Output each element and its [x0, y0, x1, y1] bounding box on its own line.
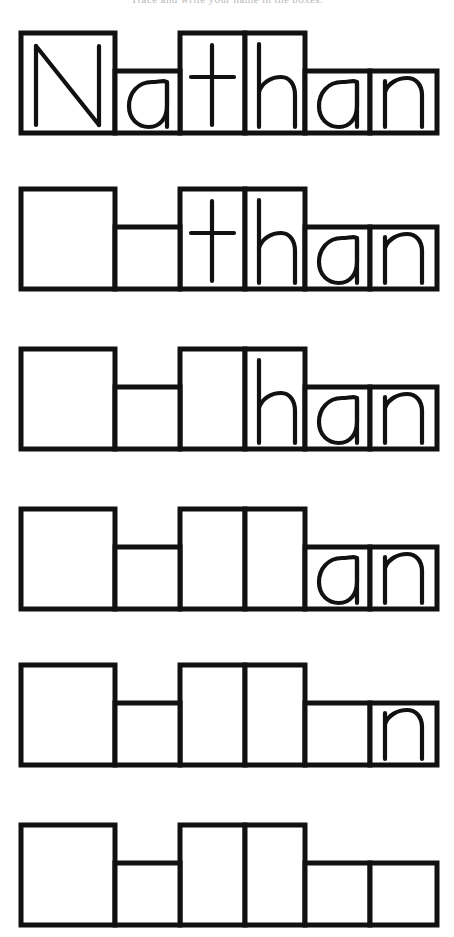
- letter-box-1[interactable]: [21, 825, 115, 925]
- letter-box-1[interactable]: [21, 509, 115, 609]
- letter-box-2[interactable]: [115, 863, 180, 925]
- worksheet-row: [0, 186, 454, 292]
- row-strip-3: [0, 346, 454, 452]
- worksheet-row: [0, 506, 454, 612]
- letter-box-1[interactable]: [21, 349, 115, 449]
- letter-box-5[interactable]: [305, 703, 370, 765]
- row-strip-4: [0, 506, 454, 612]
- worksheet-header-text: Trace and write your name in the boxes.: [0, 0, 454, 5]
- letter-box-2[interactable]: [115, 703, 180, 765]
- letter-box-3[interactable]: [180, 509, 245, 609]
- worksheet-row: [0, 30, 454, 136]
- letter-box-4[interactable]: [245, 825, 305, 925]
- row-strip-6: [0, 822, 454, 928]
- letter-box-5[interactable]: [305, 863, 370, 925]
- letter-box-2[interactable]: [115, 227, 180, 289]
- worksheet-row: [0, 662, 454, 768]
- letter-box-1[interactable]: [21, 189, 115, 289]
- letter-box-6[interactable]: [370, 863, 437, 925]
- letter-box-1[interactable]: [21, 665, 115, 765]
- letter-box-3[interactable]: [180, 825, 245, 925]
- row-strip-2: [0, 186, 454, 292]
- worksheet-page: Trace and write your name in the boxes.: [0, 0, 454, 937]
- letter-box-2[interactable]: [115, 547, 180, 609]
- letter-box-2[interactable]: [115, 387, 180, 449]
- worksheet-row: [0, 822, 454, 928]
- letter-box-4[interactable]: [245, 509, 305, 609]
- letter-box-4[interactable]: [245, 665, 305, 765]
- letter-box-3[interactable]: [180, 665, 245, 765]
- row-strip-1: [0, 30, 454, 136]
- worksheet-row: [0, 346, 454, 452]
- letter-box-3[interactable]: [180, 349, 245, 449]
- row-strip-5: [0, 662, 454, 768]
